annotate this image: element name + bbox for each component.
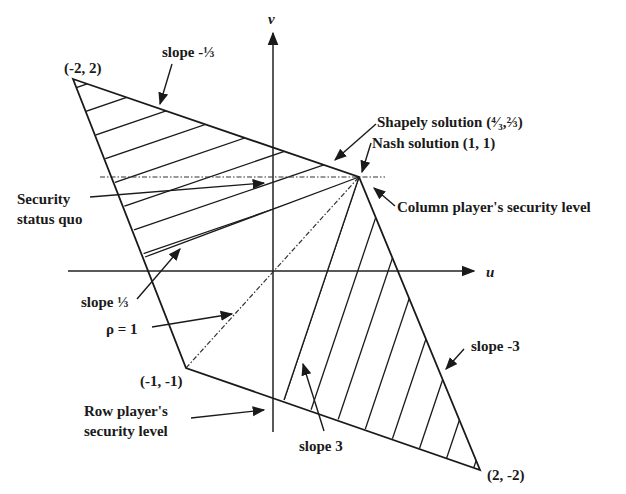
security-status-quo-label-2: status quo xyxy=(17,211,82,227)
upper-hatched-region xyxy=(40,0,420,316)
vertex-bottom-left-label: (-1, -1) xyxy=(140,373,182,390)
vertex-top-left-label: (-2, 2) xyxy=(64,60,102,77)
slope-3-label: slope 3 xyxy=(299,438,343,454)
u-axis-label: u xyxy=(486,264,494,280)
slope-top-label: slope -⅓ xyxy=(162,44,215,60)
row-security-label-1: Row player's xyxy=(84,403,168,419)
slope-neg3-label: slope -3 xyxy=(471,338,520,354)
row-security-label-2: security level xyxy=(84,423,168,439)
slope-third-label: slope ⅓ xyxy=(81,294,129,310)
shapley-solution-label: Shapely solution (⁴⁄₃,⅔) xyxy=(377,114,523,131)
column-security-label: Column player's security level xyxy=(397,199,591,215)
slope-3-boundary xyxy=(284,177,359,400)
nash-solution-label: Nash solution (1, 1) xyxy=(372,135,495,152)
vertex-bottom-right-label: (2, -2) xyxy=(487,467,525,484)
nash-bargaining-diagram: v u (-2, 2) (-1, -1) (2, -2) slope -⅓ Sh… xyxy=(0,0,626,494)
security-status-quo-label-1: Security xyxy=(17,191,71,207)
rho-label: ρ = 1 xyxy=(106,321,138,337)
v-axis-label: v xyxy=(268,11,275,27)
